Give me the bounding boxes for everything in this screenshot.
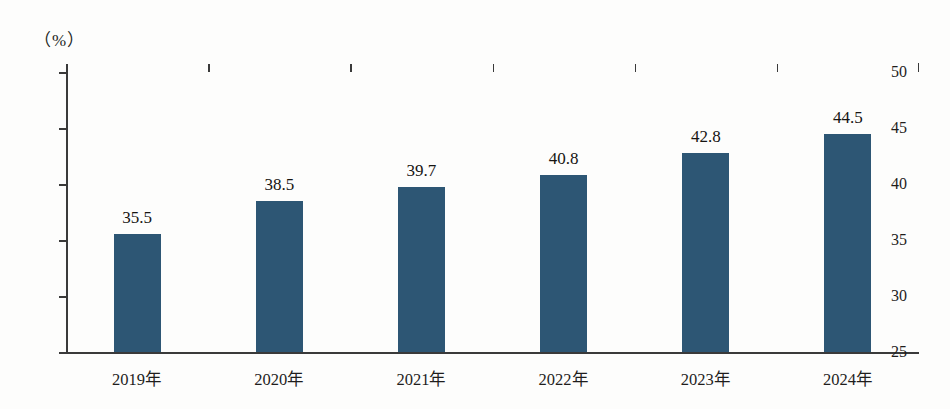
y-axis-tick	[59, 128, 66, 130]
bar	[398, 187, 445, 352]
y-axis-tick-label: 35	[891, 231, 907, 249]
bar	[256, 201, 303, 352]
bar-value-label: 35.5	[122, 208, 152, 228]
bar	[540, 175, 587, 352]
bar-value-label: 40.8	[549, 149, 579, 169]
y-axis-tick	[59, 184, 66, 186]
bar	[824, 134, 871, 352]
bar-chart: （%） 504540353025 35.538.539.740.842.844.…	[0, 0, 950, 409]
x-axis-tick	[66, 64, 68, 72]
y-axis-unit-label: （%）	[34, 26, 85, 51]
x-axis-line	[66, 352, 919, 354]
x-axis-category-label: 2022年	[539, 366, 589, 390]
x-axis-category-label: 2023年	[681, 366, 731, 390]
y-axis-tick-label: 40	[891, 175, 907, 193]
x-axis-tick	[493, 64, 495, 72]
x-axis-endcap	[918, 63, 920, 72]
y-axis-tick	[59, 352, 66, 354]
x-axis-category-label: 2020年	[254, 366, 304, 390]
bar-value-label: 39.7	[407, 161, 437, 181]
x-axis-tick	[635, 64, 637, 72]
bar	[682, 153, 729, 352]
x-axis-tick	[777, 64, 779, 72]
y-axis-tick-label: 50	[891, 63, 907, 81]
y-axis-tick-label: 25	[891, 343, 907, 361]
x-axis-category-label: 2021年	[396, 366, 446, 390]
x-axis-tick	[350, 64, 352, 72]
y-axis-tick-label: 45	[891, 119, 907, 137]
bar-value-label: 38.5	[264, 175, 294, 195]
plot-area: 504540353025 35.538.539.740.842.844.5	[66, 72, 919, 352]
bar-value-label: 42.8	[691, 127, 721, 147]
y-axis-line	[66, 72, 68, 353]
y-axis-tick	[59, 240, 66, 242]
y-axis-tick	[59, 296, 66, 298]
x-axis-category-label: 2019年	[112, 366, 162, 390]
y-axis-tick-label: 30	[891, 287, 907, 305]
x-axis-category-label: 2024年	[823, 366, 873, 390]
bar	[114, 234, 161, 352]
bar-value-label: 44.5	[833, 108, 863, 128]
x-axis-tick	[208, 64, 210, 72]
y-axis-tick	[59, 72, 66, 74]
